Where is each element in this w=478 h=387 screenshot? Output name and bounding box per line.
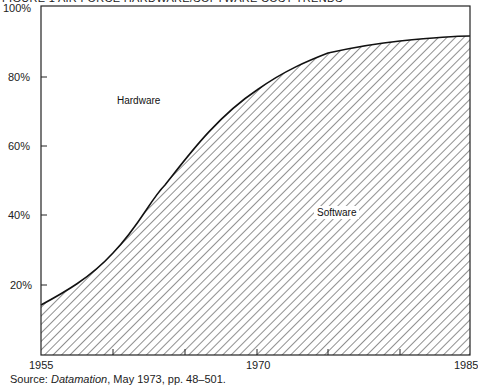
chart-plot xyxy=(0,0,478,387)
y-tick-40: 40% xyxy=(8,209,30,221)
x-tick-1970: 1970 xyxy=(246,359,270,371)
hardware-label: Hardware xyxy=(114,94,163,107)
software-label: Software xyxy=(314,206,359,219)
source-prefix: Source: xyxy=(10,373,51,385)
source-rest: , May 1973, pp. 48–501. xyxy=(107,373,226,385)
source-publication: Datamation xyxy=(51,373,107,385)
y-tick-100: 100% xyxy=(3,2,31,14)
y-tick-20: 20% xyxy=(10,279,32,291)
y-axis-ticks xyxy=(41,77,47,285)
software-area xyxy=(41,36,470,355)
y-tick-60: 60% xyxy=(8,140,30,152)
x-tick-1955: 1955 xyxy=(29,359,53,371)
y-tick-80: 80% xyxy=(8,71,30,83)
x-tick-1985: 1985 xyxy=(454,359,478,371)
source-note: Source: Datamation, May 1973, pp. 48–501… xyxy=(10,373,226,385)
